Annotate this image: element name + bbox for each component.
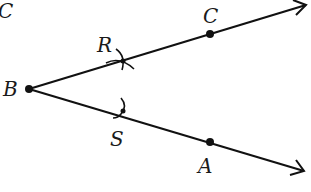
label-s: S	[110, 127, 124, 151]
label-c: C	[203, 4, 218, 28]
label-b: B	[2, 77, 18, 101]
ray-bc	[29, 5, 306, 89]
point-a	[206, 138, 214, 146]
ray-ba	[29, 89, 304, 171]
point-c	[206, 30, 214, 38]
label-a: A	[196, 154, 212, 178]
arc-r-1	[116, 49, 123, 70]
label-corner-c: C	[0, 0, 13, 23]
geometry-diagram: C B R C S A	[0, 0, 311, 192]
label-r: R	[96, 33, 112, 57]
point-b	[25, 85, 33, 93]
